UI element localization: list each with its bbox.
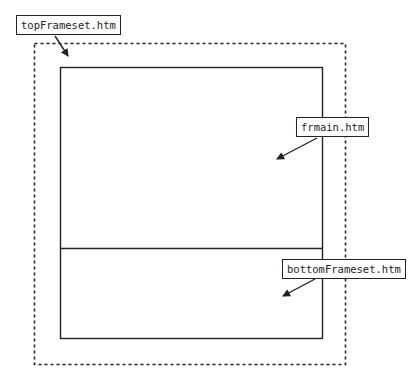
top-arrow (55, 36, 68, 56)
top-frameset-outline (35, 44, 346, 365)
bottom-frameset-label: bottomFrameset.htm (282, 259, 406, 279)
frameset-diagram (0, 0, 410, 383)
bottom-arrow (283, 279, 315, 296)
main-frame-outline (61, 68, 323, 339)
frmain-label: frmain.htm (296, 117, 369, 137)
main-arrow (277, 138, 317, 159)
top-frameset-label: topFrameset.htm (16, 15, 121, 35)
